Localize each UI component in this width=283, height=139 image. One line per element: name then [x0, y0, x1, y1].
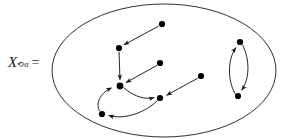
- edge-n9-n8: [229, 48, 236, 94]
- edge-n7-n5: [167, 78, 198, 95]
- edge-n2-n4: [119, 52, 120, 80]
- edge-group: [98, 26, 248, 117]
- graph-node[interactable]: [157, 95, 163, 101]
- graph-node[interactable]: [237, 39, 243, 45]
- edge-n3-n4: [126, 65, 157, 82]
- edge-n4-n5: [124, 88, 155, 99]
- edge-n6-n4: [98, 88, 112, 111]
- edge-n5-n6: [109, 101, 158, 117]
- figure-canvas: X⟲α=: [0, 0, 283, 139]
- graph-node[interactable]: [198, 73, 204, 79]
- node-group: [99, 21, 243, 117]
- graph-node[interactable]: [159, 21, 165, 27]
- edge-n1-n2: [124, 26, 159, 45]
- directed-graph: [0, 0, 283, 139]
- graph-node[interactable]: [157, 60, 163, 66]
- graph-node[interactable]: [235, 93, 241, 99]
- graph-node[interactable]: [116, 45, 122, 51]
- edge-n8-n9: [242, 45, 248, 91]
- graph-node[interactable]: [99, 111, 105, 117]
- graph-node[interactable]: [117, 83, 124, 90]
